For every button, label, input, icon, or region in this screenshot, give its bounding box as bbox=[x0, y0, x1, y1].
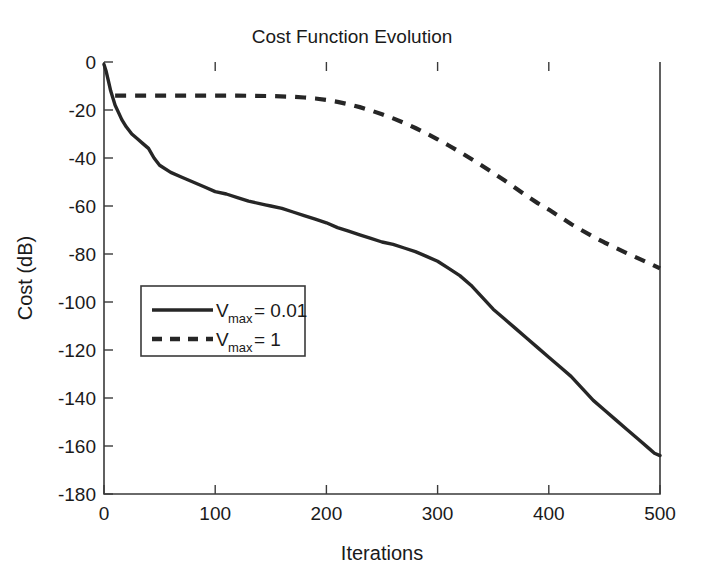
x-tick-label: 400 bbox=[533, 503, 565, 524]
x-tick-label: 100 bbox=[199, 503, 231, 524]
legend-label-vmax-1-tail: = 1 bbox=[254, 329, 281, 350]
y-tick-label: -140 bbox=[58, 388, 96, 409]
x-tick-label: 500 bbox=[644, 503, 676, 524]
x-tick-label: 0 bbox=[99, 503, 110, 524]
chart-legend[interactable]: V max = 0.01 V max = 1 bbox=[141, 286, 307, 356]
chart-background bbox=[0, 0, 703, 583]
y-tick-label: -60 bbox=[69, 196, 96, 217]
y-axis-title: Cost (dB) bbox=[14, 236, 36, 320]
y-tick-label: -120 bbox=[58, 340, 96, 361]
legend-label-vmax-1-sub: max bbox=[228, 340, 253, 355]
cost-function-evolution-chart: Cost Function Evolution 0-20-40-60-80-10… bbox=[0, 0, 703, 583]
y-tick-label: -80 bbox=[69, 244, 96, 265]
legend-label-vmax-001-tail: = 0.01 bbox=[254, 300, 307, 321]
chart-title: Cost Function Evolution bbox=[252, 26, 453, 47]
x-tick-label: 200 bbox=[311, 503, 343, 524]
y-tick-label: 0 bbox=[85, 52, 96, 73]
y-tick-label: -40 bbox=[69, 148, 96, 169]
y-tick-label: -20 bbox=[69, 100, 96, 121]
y-tick-label: -160 bbox=[58, 436, 96, 457]
figure-container: Cost Function Evolution 0-20-40-60-80-10… bbox=[0, 0, 703, 583]
y-tick-label: -100 bbox=[58, 292, 96, 313]
y-tick-label: -180 bbox=[58, 484, 96, 505]
legend-label-vmax-001-sub: max bbox=[228, 311, 253, 326]
x-axis-title: Iterations bbox=[341, 542, 423, 564]
x-tick-label: 300 bbox=[422, 503, 454, 524]
